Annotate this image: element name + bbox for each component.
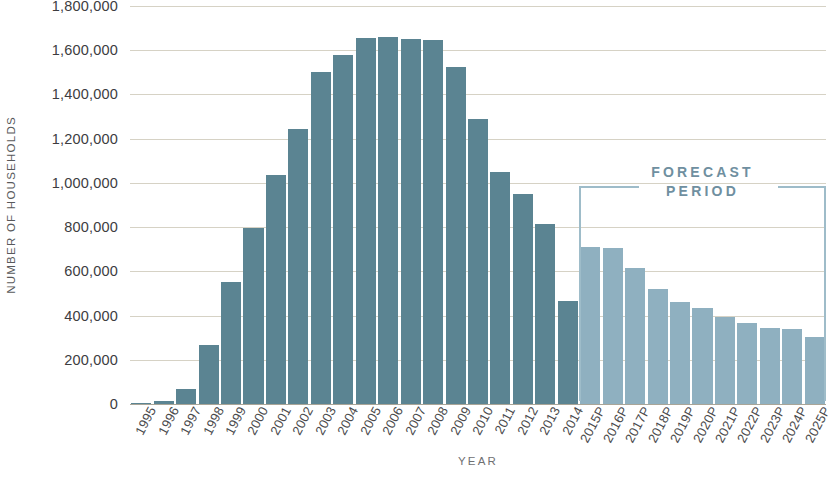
bar xyxy=(468,119,488,404)
forecast-period-label: FORECASTPERIOD xyxy=(579,163,826,201)
plot-area: FORECASTPERIOD xyxy=(130,6,826,404)
y-axis-tick-label: 400,000 xyxy=(10,308,118,324)
y-axis-tick-label: 0 xyxy=(10,396,118,412)
y-axis-tick-label: 1,200,000 xyxy=(10,131,118,147)
forecast-period-label-line: FORECAST xyxy=(579,163,826,182)
bar xyxy=(243,228,263,404)
forecast-period-label-line: PERIOD xyxy=(579,182,826,201)
y-axis-tick-label: 1,600,000 xyxy=(10,42,118,58)
bar xyxy=(288,129,308,404)
y-axis-tick-label: 800,000 xyxy=(10,219,118,235)
bar xyxy=(333,55,353,404)
bar xyxy=(535,224,555,404)
bar xyxy=(266,175,286,404)
y-axis-tick-label: 1,800,000 xyxy=(10,0,118,14)
bar xyxy=(423,40,443,404)
bar-series xyxy=(130,6,826,404)
bar xyxy=(490,172,510,404)
y-axis-tick-label: 1,400,000 xyxy=(10,86,118,102)
y-axis-tick-label: 600,000 xyxy=(10,263,118,279)
bar xyxy=(401,39,421,404)
y-axis-tick-labels: 1,800,0001,600,0001,400,0001,200,0001,00… xyxy=(10,0,118,477)
y-axis-tick-label: 200,000 xyxy=(10,352,118,368)
bar xyxy=(446,67,466,404)
x-axis-title: YEAR xyxy=(130,455,826,467)
y-axis-tick-label: 1,000,000 xyxy=(10,175,118,191)
x-axis-tick-labels: 1995199619971998199920002001200220032004… xyxy=(130,404,826,454)
bar xyxy=(311,72,331,404)
bar xyxy=(513,194,533,404)
bar xyxy=(356,38,376,404)
chart-container: NUMBER OF HOUSEHOLDS 1,800,0001,600,0001… xyxy=(0,0,831,477)
bar xyxy=(378,37,398,404)
